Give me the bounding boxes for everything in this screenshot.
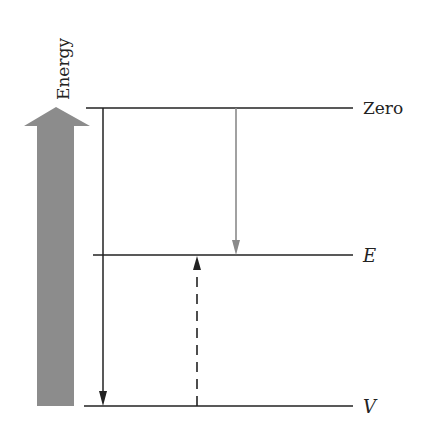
level-label-v: V (363, 396, 378, 417)
arrow-zero-to-e-icon (232, 108, 240, 255)
arrow-v-to-e-dashed-icon (193, 256, 201, 406)
energy-axis-arrow-icon (24, 107, 90, 406)
level-label-zero: Zero (363, 98, 403, 118)
level-label-e: E (362, 245, 376, 266)
energy-axis-label: Energy (53, 38, 73, 100)
arrow-zero-to-v-icon (99, 108, 107, 406)
energy-level-diagram: Energy Zero E V (0, 0, 429, 437)
